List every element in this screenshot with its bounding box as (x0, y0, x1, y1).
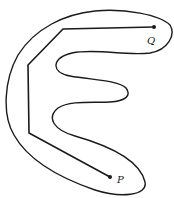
point-q-dot (152, 25, 156, 29)
diagram-canvas: Q P (0, 0, 174, 198)
point-p-dot (108, 175, 112, 179)
point-p-label: P (116, 174, 124, 185)
point-q-label: Q (147, 35, 155, 46)
